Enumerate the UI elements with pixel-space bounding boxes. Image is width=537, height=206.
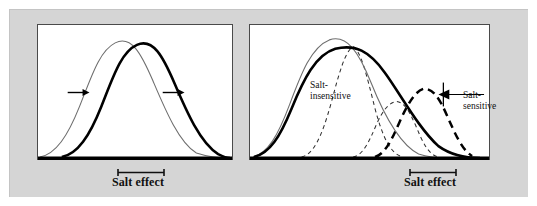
panel-left-plot — [38, 25, 232, 160]
label-salt-insensitive: Salt- insensitive — [310, 80, 351, 101]
label-salt-sensitive-line2: sensitive — [463, 101, 496, 112]
label-salt-insensitive-line1: Salt- — [310, 80, 351, 91]
label-salt-sensitive: Salt- sensitive — [463, 90, 496, 111]
panel-right-plot — [250, 25, 489, 160]
curve-salt-sensitive-subpopulation — [353, 101, 438, 157]
figure-root: Salt- insensitive Salt- sensitive Salt e… — [0, 0, 537, 206]
label-salt-effect-right: Salt effect — [404, 175, 456, 190]
label-salt-sensitive-line1: Salt- — [463, 90, 496, 101]
panel-uniform-shift — [37, 24, 233, 160]
curve-baseline-distribution — [40, 41, 230, 158]
curve-salt-shifted-total-distribution — [254, 47, 480, 158]
panel-subpopulation — [249, 24, 490, 160]
curve-baseline-total-distribution — [253, 39, 448, 158]
label-salt-insensitive-line2: insensitive — [310, 91, 351, 102]
label-salt-effect-left: Salt effect — [112, 175, 164, 190]
shift-arrow-right-flank — [163, 89, 185, 96]
curve-salt-shifted-distribution — [62, 43, 230, 158]
